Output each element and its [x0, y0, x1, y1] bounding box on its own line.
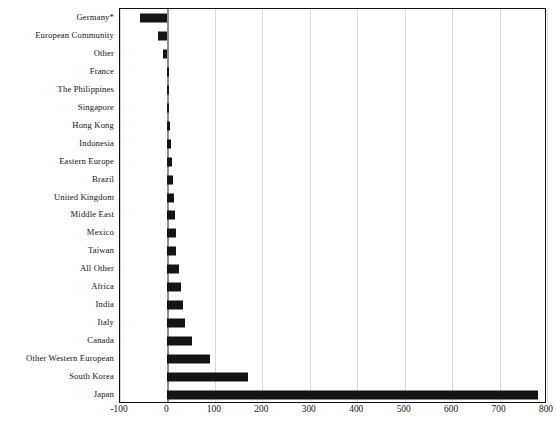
- category-label: Italy: [0, 317, 114, 327]
- bar: [167, 391, 537, 400]
- category-label: Canada: [0, 335, 114, 345]
- bar: [167, 265, 178, 274]
- x-tick-label: 400: [349, 404, 363, 414]
- bar: [167, 373, 247, 382]
- gridline--100: [120, 9, 121, 402]
- bar: [167, 121, 170, 130]
- category-label: France: [0, 66, 114, 76]
- bar: [167, 355, 210, 364]
- bar: [167, 103, 168, 112]
- category-label: Japan: [0, 389, 114, 399]
- x-tick-label: 600: [444, 404, 458, 414]
- bar: [140, 13, 168, 22]
- category-label: Other Western European: [0, 353, 114, 363]
- x-tick-label: 100: [207, 404, 221, 414]
- category-label: European Community: [0, 30, 114, 40]
- bar: [167, 283, 180, 292]
- category-label: India: [0, 299, 114, 309]
- horizontal-bar-chart: Germany*European CommunityOtherFranceThe…: [0, 0, 556, 431]
- gridline-200: [262, 9, 263, 402]
- x-tick-label: 500: [397, 404, 411, 414]
- bar: [167, 247, 176, 256]
- bar: [167, 337, 192, 346]
- gridline-400: [357, 9, 358, 402]
- bar: [167, 139, 170, 148]
- category-label: Germany*: [0, 12, 114, 22]
- x-tick-label: -100: [110, 404, 127, 414]
- gridline-800: [547, 9, 548, 402]
- bar: [158, 31, 167, 40]
- category-label: Mexico: [0, 227, 114, 237]
- category-label: Taiwan: [0, 245, 114, 255]
- x-tick-label: 800: [539, 404, 553, 414]
- bar: [167, 211, 175, 220]
- x-tick-label: 200: [254, 404, 268, 414]
- bar: [167, 85, 168, 94]
- category-label: Brazil: [0, 174, 114, 184]
- bar: [167, 319, 185, 328]
- category-label: The Philippines: [0, 84, 114, 94]
- plot-area: [119, 8, 546, 403]
- category-label: Singapore: [0, 102, 114, 112]
- category-label: Hong Kong: [0, 120, 114, 130]
- category-label: Middle East: [0, 209, 114, 219]
- bar: [163, 49, 168, 58]
- category-label: Indonesia: [0, 138, 114, 148]
- category-label: Eastern Europe: [0, 156, 114, 166]
- gridline-100: [215, 9, 216, 402]
- bar: [167, 193, 173, 202]
- bar: [167, 157, 171, 166]
- bar: [167, 175, 172, 184]
- bar: [167, 229, 175, 238]
- category-label-column: Germany*European CommunityOtherFranceThe…: [0, 8, 114, 403]
- x-tick-label: 700: [492, 404, 506, 414]
- gridline-300: [310, 9, 311, 402]
- gridline-600: [452, 9, 453, 402]
- x-axis-tick-labels: -1000100200300400500600700800: [119, 404, 546, 420]
- category-label: Other: [0, 48, 114, 58]
- x-tick-label: 0: [164, 404, 169, 414]
- figure-caption: [0, 422, 556, 431]
- x-tick-label: 300: [302, 404, 316, 414]
- category-label: All Other: [0, 263, 114, 273]
- bar: [167, 301, 182, 310]
- category-label: Africa: [0, 281, 114, 291]
- bar: [167, 67, 168, 76]
- gridline-500: [405, 9, 406, 402]
- category-label: United Kingdom: [0, 192, 114, 202]
- gridline-700: [500, 9, 501, 402]
- category-label: South Korea: [0, 371, 114, 381]
